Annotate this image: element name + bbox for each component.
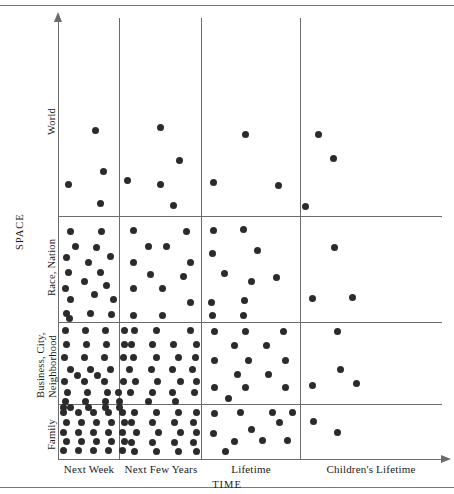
data-point [172, 398, 179, 405]
data-point [147, 271, 154, 278]
data-point [302, 203, 309, 210]
data-point [92, 127, 99, 134]
data-point [171, 439, 178, 446]
data-point [183, 228, 190, 235]
data-point [211, 410, 218, 417]
data-point [280, 328, 287, 335]
y-tick-world: World [46, 108, 58, 135]
data-point [310, 418, 317, 425]
data-point [97, 200, 104, 207]
data-point [187, 327, 194, 334]
data-point [237, 409, 244, 416]
data-point [154, 378, 161, 385]
data-point [245, 357, 252, 364]
data-point [131, 448, 138, 455]
data-point [180, 273, 187, 280]
data-point [334, 429, 341, 436]
data-point [105, 447, 112, 454]
data-point [130, 227, 137, 234]
data-point [192, 354, 199, 361]
data-point [176, 157, 183, 164]
data-point [276, 419, 283, 426]
data-point [155, 429, 162, 436]
data-point [83, 341, 90, 348]
data-point [101, 354, 108, 361]
data-point [130, 354, 137, 361]
data-point [211, 357, 218, 364]
data-point [149, 389, 156, 396]
data-point [149, 439, 156, 446]
data-point [90, 447, 97, 454]
data-point [78, 419, 85, 426]
data-point [130, 312, 137, 319]
data-point [157, 124, 164, 131]
data-point [132, 378, 139, 385]
data-point [330, 155, 337, 162]
data-point [74, 372, 81, 379]
data-point [282, 384, 289, 391]
y-tick-race-nation: Race, Nation [46, 239, 58, 296]
data-point [157, 181, 164, 188]
data-point [177, 429, 184, 436]
data-point [153, 409, 160, 416]
data-point [193, 378, 200, 385]
data-point [148, 366, 155, 373]
data-point [75, 447, 82, 454]
data-point [190, 439, 197, 446]
data-point [62, 327, 69, 334]
data-point [101, 378, 108, 385]
data-point [128, 419, 135, 426]
data-point [254, 247, 261, 254]
data-point [93, 438, 100, 445]
data-point [121, 438, 128, 445]
data-point [131, 327, 138, 334]
data-point [128, 341, 135, 348]
dot-layer [0, 0, 454, 494]
data-point [153, 448, 160, 455]
data-point [187, 299, 194, 306]
data-point [61, 378, 68, 385]
data-point [65, 269, 72, 276]
data-point [98, 228, 105, 235]
data-point [209, 250, 216, 257]
data-point [93, 244, 100, 251]
data-point [284, 437, 291, 444]
data-point [242, 384, 249, 391]
data-point [153, 354, 160, 361]
data-point [90, 429, 97, 436]
data-point [97, 269, 104, 276]
data-point [175, 448, 182, 455]
data-point [273, 274, 280, 281]
data-point [63, 341, 70, 348]
data-point [153, 327, 160, 334]
data-point [240, 312, 247, 319]
data-point [248, 426, 255, 433]
data-point [234, 371, 241, 378]
data-point [209, 312, 216, 319]
data-point [193, 409, 200, 416]
data-point [75, 409, 82, 416]
data-point [130, 259, 137, 266]
data-point [353, 380, 360, 387]
data-point [210, 179, 217, 186]
data-point [67, 366, 74, 373]
data-point [248, 278, 255, 285]
data-point [103, 341, 110, 348]
data-point [269, 409, 276, 416]
dot-density-chart: World Race, Nation Business, City, Neigh… [0, 0, 454, 494]
data-point [121, 419, 128, 426]
data-point [63, 419, 70, 426]
data-point [85, 404, 92, 411]
data-point [337, 366, 344, 373]
data-point [133, 429, 140, 436]
data-point [242, 131, 249, 138]
data-point [120, 378, 127, 385]
data-point [72, 243, 79, 250]
data-point [102, 404, 109, 411]
data-point [108, 311, 115, 318]
data-point [159, 285, 166, 292]
data-point [119, 447, 126, 454]
data-point [66, 315, 73, 322]
data-point [175, 354, 182, 361]
data-point [349, 294, 356, 301]
